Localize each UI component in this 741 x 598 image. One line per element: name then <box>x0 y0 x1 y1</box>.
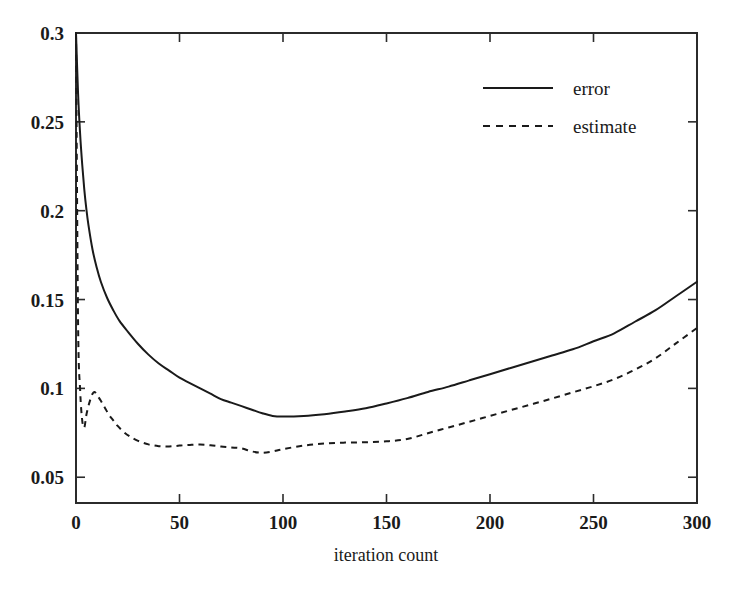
legend-label-error: error <box>573 78 611 99</box>
x-tick-label: 250 <box>579 512 608 533</box>
x-tick-label: 0 <box>71 512 81 533</box>
x-axis-title: iteration count <box>334 545 438 565</box>
y-tick-label: 0.1 <box>40 378 64 399</box>
y-tick-label: 0.05 <box>31 467 64 488</box>
y-tick-label: 0.25 <box>31 112 64 133</box>
y-tick-label: 0.2 <box>40 201 64 222</box>
x-tick-label: 50 <box>170 512 189 533</box>
y-tick-label: 0.15 <box>31 290 64 311</box>
x-tick-label: 100 <box>269 512 298 533</box>
x-tick-label: 300 <box>683 512 712 533</box>
y-tick-label: 0.3 <box>40 23 64 44</box>
line-chart-figure: 050100150200250300 0.050.10.150.20.250.3… <box>0 0 741 598</box>
figure-background <box>0 0 741 598</box>
legend-label-estimate: estimate <box>573 116 636 137</box>
x-tick-label: 150 <box>372 512 401 533</box>
x-tick-label: 200 <box>476 512 505 533</box>
